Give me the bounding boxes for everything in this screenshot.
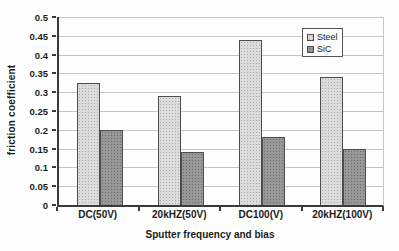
x-tick-label-DC100(V): DC100(V) <box>220 209 302 220</box>
x-tick-mark <box>301 207 303 211</box>
x-tick-mark <box>382 207 384 211</box>
bar-steel-20kHZ(50V) <box>158 96 181 205</box>
bar-steel-DC100(V) <box>239 40 262 205</box>
y-tick-mark <box>52 204 56 206</box>
y-tick-mark <box>52 54 56 56</box>
steel-swatch-icon <box>307 34 314 41</box>
y-tick-label-0.5: 0.5 <box>2 12 48 23</box>
legend: SteelSiC <box>302 28 343 57</box>
x-tick-label-20kHZ(50V): 20kHZ(50V) <box>139 209 221 220</box>
sic-swatch-icon <box>307 46 314 53</box>
legend-label-steel: Steel <box>317 32 338 42</box>
y-tick-mark <box>52 110 56 112</box>
legend-item-steel: Steel <box>307 32 338 42</box>
x-tick-label-DC(50V): DC(50V) <box>57 209 139 220</box>
gridline-0.5 <box>59 17 383 18</box>
y-tick-label-0.2: 0.2 <box>2 125 48 136</box>
y-tick-mark <box>52 166 56 168</box>
legend-label-sic: SiC <box>317 44 332 54</box>
y-axis: 00.050.10.150.20.250.30.350.40.450.5 <box>0 17 56 205</box>
y-tick-mark <box>52 16 56 18</box>
bar-sic-DC(50V) <box>100 130 123 205</box>
x-tick-mark <box>219 207 221 211</box>
y-tick-mark <box>52 72 56 74</box>
y-tick-label-0.05: 0.05 <box>2 181 48 192</box>
y-tick-label-0.4: 0.4 <box>2 50 48 61</box>
bar-sic-DC100(V) <box>262 137 285 205</box>
legend-item-sic: SiC <box>307 44 338 54</box>
x-tick-mark <box>56 207 58 211</box>
y-tick-mark <box>52 185 56 187</box>
y-tick-label-0.25: 0.25 <box>2 106 48 117</box>
y-tick-label-0.45: 0.45 <box>2 31 48 42</box>
y-tick-mark <box>52 91 56 93</box>
x-tick-label-20kHZ(100V): 20kHZ(100V) <box>302 209 384 220</box>
y-tick-label-0.35: 0.35 <box>2 68 48 79</box>
bar-sic-20kHZ(50V) <box>181 152 204 205</box>
x-axis-title: Sputter frequency and bias <box>40 229 380 240</box>
bar-chart-figure: friction coefficient 00.050.10.150.20.25… <box>0 0 399 251</box>
plot-area: SteelSiC <box>57 17 384 207</box>
y-tick-label-0.15: 0.15 <box>2 144 48 155</box>
y-tick-mark <box>52 129 56 131</box>
y-tick-mark <box>52 35 56 37</box>
x-tick-mark <box>138 207 140 211</box>
bar-sic-20kHZ(100V) <box>343 149 366 205</box>
y-tick-label-0: 0 <box>2 200 48 211</box>
y-tick-label-0.1: 0.1 <box>2 162 48 173</box>
bar-steel-20kHZ(100V) <box>320 77 343 205</box>
y-tick-mark <box>52 148 56 150</box>
y-tick-label-0.3: 0.3 <box>2 87 48 98</box>
gridline-0.35 <box>59 73 383 74</box>
bar-steel-DC(50V) <box>77 83 100 205</box>
